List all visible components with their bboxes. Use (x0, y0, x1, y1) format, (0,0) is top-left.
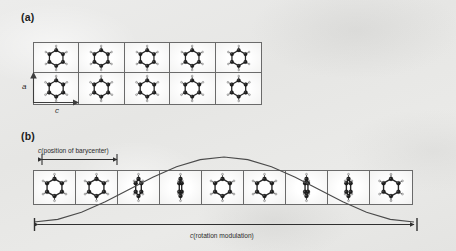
benzene-molecule-icon (216, 43, 261, 73)
benzene-molecule-icon (34, 43, 78, 73)
molecule-cell (370, 171, 412, 204)
modulation-label-text: (rotation modulation) (193, 232, 253, 239)
molecule-cell (34, 43, 79, 74)
panel-b-grid (33, 170, 413, 205)
molecule-cell (286, 171, 328, 204)
benzene-molecule-icon (370, 171, 412, 204)
barycenter-label-text: (position of barycenter) (41, 147, 108, 154)
paper-texture-background (0, 0, 456, 251)
panel-a-grid-row-bottom (33, 72, 262, 105)
benzene-molecule-icon (34, 73, 78, 104)
molecule-cell (170, 73, 215, 104)
benzene-molecule-icon (76, 171, 117, 204)
benzene-molecule-icon (79, 73, 123, 104)
molecule-cell (79, 73, 124, 104)
panel-a-axis-label-a: a (22, 82, 26, 91)
molecule-cell (216, 73, 261, 104)
benzene-molecule-icon (160, 171, 201, 204)
benzene-molecule-icon (286, 171, 327, 204)
molecule-cell (170, 43, 215, 74)
panel-a-axis-label-c: c (55, 106, 59, 115)
panel-a-axes (0, 0, 456, 251)
benzene-molecule-icon (125, 73, 169, 104)
benzene-molecule-icon (170, 43, 214, 73)
molecule-cell (125, 43, 170, 74)
molecule-cell (34, 171, 76, 204)
benzene-molecule-icon (34, 171, 75, 204)
molecule-cell (34, 73, 79, 104)
molecule-cell (79, 43, 124, 74)
modulation-label: c(rotation modulation) (190, 232, 254, 239)
molecule-cell (244, 171, 286, 204)
molecule-cell (118, 171, 160, 204)
molecule-cell (125, 73, 170, 104)
benzene-molecule-icon (79, 43, 123, 73)
molecule-cell (160, 171, 202, 204)
benzene-molecule-icon (118, 171, 159, 204)
panel-a-label: (a) (21, 11, 34, 23)
molecule-cell (202, 171, 244, 204)
panel-a-grid-row-top (33, 42, 262, 75)
benzene-molecule-icon (202, 171, 243, 204)
panel-b-overlay (0, 0, 456, 251)
molecule-cell (76, 171, 118, 204)
benzene-molecule-icon (328, 171, 369, 204)
benzene-molecule-icon (244, 171, 285, 204)
benzene-molecule-icon (216, 73, 261, 104)
panel-b-label: (b) (21, 130, 35, 142)
molecule-cell (216, 43, 261, 74)
benzene-molecule-icon (125, 43, 169, 73)
barycenter-label: c(position of barycenter) (38, 147, 109, 154)
molecule-cell (328, 171, 370, 204)
benzene-molecule-icon (170, 73, 214, 104)
